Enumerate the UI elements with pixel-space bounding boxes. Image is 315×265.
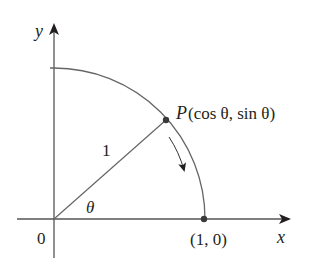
- point-1-0-label: (1, 0): [190, 230, 227, 249]
- point-p-coords: (cos θ, sin θ): [188, 104, 275, 123]
- angle-label: θ: [86, 198, 94, 217]
- direction-arrow-icon: [169, 137, 184, 170]
- point-p: [163, 117, 169, 123]
- radius-line: [54, 120, 166, 219]
- radius-label: 1: [102, 141, 111, 160]
- point-1-0: [201, 216, 207, 222]
- origin-label: 0: [37, 229, 46, 248]
- point-p-name: P: [175, 103, 187, 123]
- y-axis-label: y: [33, 21, 43, 41]
- unit-circle-diagram: y x 0 1 θ P (cos θ, sin θ) (1, 0): [0, 0, 315, 265]
- x-axis-label: x: [276, 227, 285, 247]
- unit-circle-arc: [50, 68, 205, 219]
